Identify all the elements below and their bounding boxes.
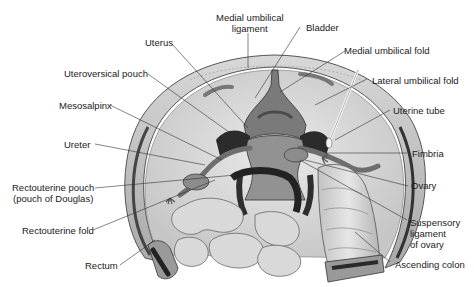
label-medial-umbilical-fold: Medial umbilical fold bbox=[344, 45, 430, 56]
label-rectouterine-fold: Rectouterine fold bbox=[22, 225, 94, 236]
label-uterine-tube: Uterine tube bbox=[393, 105, 445, 116]
label-mesosalpinx: Mesosalpinx bbox=[59, 100, 112, 111]
label-fimbria: Fimbria bbox=[412, 148, 444, 159]
label-uterus: Uterus bbox=[145, 37, 173, 48]
label-rectouterine-pouch: Rectouterine pouch (pouch of Douglas) bbox=[12, 182, 94, 204]
label-ascending-colon: Ascending colon bbox=[395, 259, 465, 270]
label-suspensory-ligament-of-ovary: Suspensory ligament of ovary bbox=[410, 217, 460, 250]
label-ureter: Ureter bbox=[64, 139, 90, 150]
label-ovary: Ovary bbox=[411, 180, 436, 191]
ovary-right bbox=[284, 148, 308, 162]
label-lateral-umbilical-fold: Lateral umbilical fold bbox=[372, 75, 459, 86]
label-rectum: Rectum bbox=[85, 260, 118, 271]
label-medial-umbilical-ligament: Medial umbilical ligament bbox=[216, 12, 284, 34]
label-bladder: Bladder bbox=[306, 22, 339, 33]
label-uterovesical-pouch: Uteroversical pouch bbox=[64, 68, 148, 79]
